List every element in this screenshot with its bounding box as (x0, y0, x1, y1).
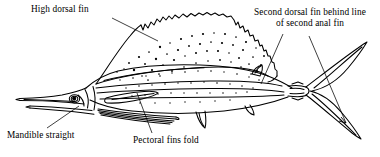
caudal-notch-lower (292, 98, 303, 100)
caudal-fin-upper-inner-ray (314, 47, 362, 88)
caudal-fin-upper-lobe (306, 42, 367, 91)
caudal-notch-upper (292, 82, 303, 84)
leader-lines (47, 18, 346, 133)
label-second-dorsal-fin: Second dorsal fin behind line of second … (246, 7, 374, 29)
label-high-dorsal-fin: High dorsal fin (31, 4, 89, 15)
mandible-tip (26, 106, 30, 108)
caudal-keel-lower (290, 93, 304, 94)
operculum-edge (93, 87, 95, 111)
label-mandible-straight: Mandible straight (7, 130, 75, 141)
leader-second-dorsal-b (309, 36, 346, 123)
sailfish-identification-figure: High dorsal fin Second dorsal fin behind… (0, 0, 380, 157)
body-stipple-spots (119, 70, 259, 104)
caudal-peduncle-lower (288, 96, 306, 97)
bill-tip (16, 99, 20, 101)
eye-pupil (73, 97, 76, 100)
leader-second-dorsal-a (261, 34, 283, 84)
pelvic-fin-tip (176, 117, 179, 119)
sail-base-inner (104, 68, 204, 81)
caudal-keel-upper (290, 88, 304, 89)
preopercle-line (85, 90, 88, 109)
label-second-dorsal-fin-line2: of second anal fin (246, 18, 374, 29)
label-pectoral-fins-fold: Pectoral fins fold (133, 135, 199, 146)
body-ventral-contour (90, 97, 288, 113)
leader-high-dorsal-fin (112, 18, 158, 41)
lateral-line-mid (97, 88, 284, 93)
lateral-line-upper (96, 81, 282, 88)
label-second-dorsal-fin-line1: Second dorsal fin behind line (254, 7, 366, 17)
mandible-lower-edge (30, 108, 94, 114)
caudal-fin-fork-notch (306, 87, 309, 95)
caudal-fin-lower-inner-ray (312, 94, 356, 135)
